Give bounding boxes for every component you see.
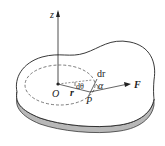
dtheta-label: dθ [76,82,84,91]
z-axis-label: z [49,9,54,20]
force-label: F [133,79,141,90]
dr-label: dr [97,68,106,79]
z-axis-arrowhead [56,10,60,17]
origin-label: O [52,88,59,99]
radius-label: r [70,87,74,98]
rigid-body-diagram: z O r dθ P dr α F [0,0,165,146]
